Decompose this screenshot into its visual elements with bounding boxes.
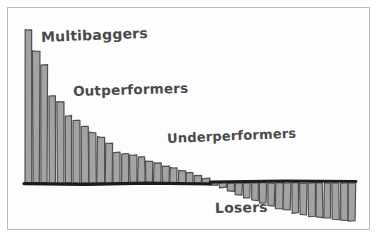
- annotation-outperformers: Outperformers: [73, 80, 189, 99]
- bar: [129, 155, 137, 183]
- bar: [146, 161, 153, 183]
- bar: [65, 115, 71, 183]
- bar: [170, 168, 177, 184]
- screenshot-root: Multibaggers Outperformers Underperforme…: [0, 0, 378, 238]
- bar: [292, 183, 299, 214]
- bar: [32, 51, 40, 183]
- bar: [81, 126, 89, 183]
- bar: [186, 173, 193, 184]
- bar: [138, 157, 146, 183]
- bar: [324, 183, 331, 218]
- bar: [122, 154, 129, 184]
- bar: [341, 183, 349, 221]
- bar: [219, 183, 227, 188]
- bar: [162, 166, 169, 183]
- bar: [275, 183, 283, 209]
- bar: [332, 183, 339, 220]
- bar: [178, 170, 186, 183]
- bar-chart: Multibaggers Outperformers Underperforme…: [0, 0, 378, 238]
- bar: [194, 175, 202, 183]
- bar: [113, 152, 120, 183]
- bar: [105, 143, 112, 183]
- bar: [316, 182, 323, 217]
- bar: [57, 102, 64, 184]
- bar: [49, 96, 56, 184]
- bar: [283, 182, 291, 209]
- bar: [243, 183, 250, 198]
- baseline-negative-span: [210, 181, 356, 182]
- bar: [73, 120, 80, 183]
- bars-group: [25, 30, 356, 222]
- bar: [153, 163, 161, 183]
- annotation-losers: Losers: [215, 199, 268, 216]
- bar: [348, 183, 356, 222]
- baseline-positive-span: [24, 183, 210, 184]
- bar: [89, 132, 96, 183]
- bar: [268, 183, 275, 206]
- bar: [235, 183, 242, 196]
- bar: [252, 183, 259, 201]
- bar: [227, 183, 234, 191]
- bar: [308, 183, 316, 217]
- bar: [97, 137, 105, 183]
- bar: [25, 30, 32, 184]
- bar: [41, 65, 48, 183]
- bar: [300, 183, 308, 215]
